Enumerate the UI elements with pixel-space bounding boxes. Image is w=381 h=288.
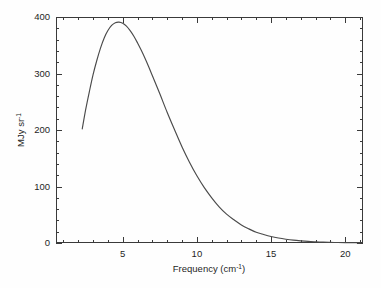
y-tick-label: 300 bbox=[34, 68, 50, 79]
x-tick-label: 15 bbox=[266, 248, 277, 259]
x-axis-major-ticks bbox=[124, 17, 346, 243]
y-tick-label: 100 bbox=[34, 181, 50, 192]
x-axis-minor-ticks bbox=[64, 17, 361, 243]
x-tick-label: 10 bbox=[192, 248, 203, 259]
x-tick-label: 20 bbox=[340, 248, 351, 259]
y-axis-tick-labels: 0100200300400 bbox=[34, 11, 50, 248]
spectrum-curve bbox=[82, 22, 360, 243]
plot-frame bbox=[57, 18, 363, 243]
y-axis-title: MJy sr-1 bbox=[15, 113, 26, 147]
y-tick-label: 0 bbox=[45, 237, 50, 248]
chart-plot: 5101520 0100200300400 Frequency (cm-1) M… bbox=[0, 0, 381, 288]
x-tick-label: 5 bbox=[120, 248, 125, 259]
x-axis-tick-labels: 5101520 bbox=[120, 248, 350, 259]
y-tick-label: 400 bbox=[34, 11, 50, 22]
y-tick-label: 200 bbox=[34, 124, 50, 135]
y-axis-minor-ticks bbox=[56, 29, 363, 233]
y-axis-major-ticks bbox=[56, 18, 363, 244]
x-axis-title: Frequency (cm-1) bbox=[173, 263, 245, 274]
figure-container: 5101520 0100200300400 Frequency (cm-1) M… bbox=[0, 0, 381, 288]
